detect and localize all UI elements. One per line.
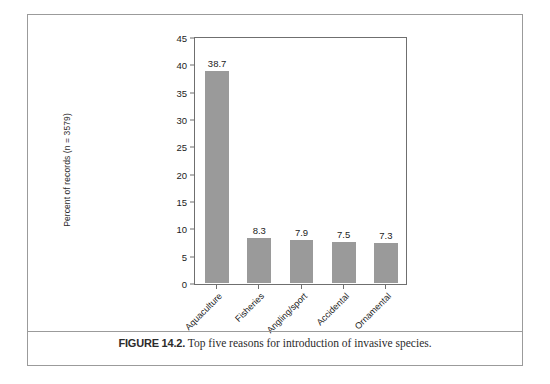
bar-column: 38.7	[205, 39, 229, 283]
figure-page: Percent of records (n = 3579) 0510152025…	[27, 14, 523, 366]
x-axis-tick-label-text: Accidental	[314, 291, 350, 327]
x-axis-tick-label-text: Ornamental	[353, 291, 393, 331]
y-axis-tick-mark	[190, 147, 195, 148]
x-axis-tick-label-text: Fisheries	[233, 291, 266, 324]
y-axis-tick-mark	[190, 284, 195, 285]
y-axis-tick-label: 35	[161, 87, 187, 98]
y-axis-title: Percent of records (n = 3579)	[62, 85, 72, 255]
bar	[374, 243, 398, 283]
x-axis-tick-mark	[301, 284, 302, 289]
y-axis-tick-mark	[190, 120, 195, 121]
y-axis-tick-mark	[190, 92, 195, 93]
plot-area: 051015202530354045 38.78.37.97.57.3 Aqua…	[194, 37, 407, 285]
bar	[290, 240, 314, 283]
y-axis-tick-label: 0	[161, 279, 187, 290]
y-axis-tick-label: 5	[161, 251, 187, 262]
caption-body-text: Top five reasons for introduction of inv…	[188, 337, 432, 349]
bar-column: 8.3	[247, 39, 271, 283]
y-axis-tick-label: 45	[161, 33, 187, 44]
bar-value-label: 7.3	[379, 230, 392, 241]
bar-column: 7.9	[290, 39, 314, 283]
y-axis-tick-mark	[190, 256, 195, 257]
y-axis-tick-label: 10	[161, 224, 187, 235]
x-axis-tick-label-text: Angling/sport	[264, 291, 308, 335]
x-axis-tick-mark	[258, 284, 259, 289]
y-axis-tick-mark	[190, 38, 195, 39]
y-axis-tick-label: 15	[161, 197, 187, 208]
bar-value-label: 7.5	[337, 229, 350, 240]
bar	[205, 71, 229, 283]
bar-value-label: 7.9	[295, 227, 308, 238]
bar-value-label: 8.3	[253, 225, 266, 236]
bar-value-label: 38.7	[208, 58, 227, 69]
y-axis-tick-mark	[190, 65, 195, 66]
caption-figure-number: FIGURE 14.2.	[118, 337, 185, 349]
figure-caption: FIGURE 14.2. Top five reasons for introd…	[28, 337, 522, 349]
x-axis-tick-mark	[385, 284, 386, 289]
y-axis-tick-label: 25	[161, 142, 187, 153]
bar-column: 7.5	[332, 39, 356, 283]
y-axis-tick-label: 30	[161, 115, 187, 126]
bar-column: 7.3	[374, 39, 398, 283]
x-axis-tick-mark	[216, 284, 217, 289]
bar-series: 38.78.37.97.57.3	[196, 39, 405, 283]
caption-divider	[28, 331, 522, 332]
y-axis-tick-label: 40	[161, 60, 187, 71]
y-axis-tick-label: 20	[161, 169, 187, 180]
y-axis-tick-mark	[190, 202, 195, 203]
y-axis-tick-mark	[190, 174, 195, 175]
x-axis-tick-mark	[343, 284, 344, 289]
y-axis-tick-mark	[190, 229, 195, 230]
bar-chart: Percent of records (n = 3579) 0510152025…	[28, 15, 522, 331]
x-axis-tick-label-text: Aquaculture	[183, 291, 224, 332]
